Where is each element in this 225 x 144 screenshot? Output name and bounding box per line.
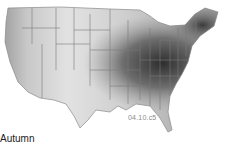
figure-code: 04.10.c5: [128, 114, 156, 121]
season-caption: Autumn: [0, 133, 34, 144]
map-fill: [0, 0, 225, 140]
us-choropleth-map: [0, 0, 225, 140]
